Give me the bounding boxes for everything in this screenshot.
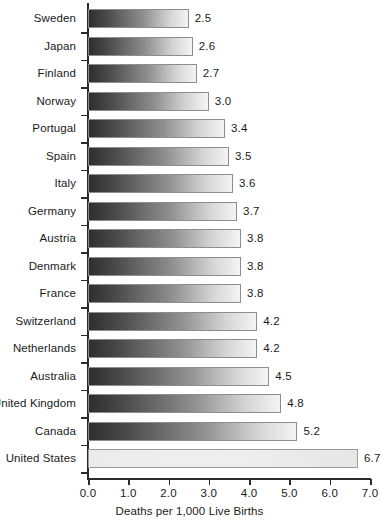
bar-value-label: 3.8 [247, 229, 264, 248]
bar [88, 147, 229, 166]
bar [88, 9, 189, 28]
y-axis-tick [81, 142, 88, 144]
y-axis-tick [81, 307, 88, 309]
category-label: Germany [28, 202, 76, 221]
bar [88, 449, 358, 468]
bar-value-label: 6.7 [364, 449, 381, 468]
bar [88, 367, 269, 386]
x-axis-tick [249, 479, 251, 485]
category-label: Netherlands [13, 339, 76, 358]
y-axis-tick [81, 445, 88, 447]
bar [88, 312, 257, 331]
x-axis-tick-label: 4.0 [241, 486, 258, 500]
bar [88, 339, 257, 358]
x-axis-tick-label: 3.0 [201, 486, 218, 500]
bar [88, 229, 241, 248]
y-axis-tick [81, 252, 88, 254]
x-axis-tick-label: 7.0 [362, 486, 379, 500]
bar-value-label: 2.6 [199, 37, 216, 56]
bar [88, 257, 241, 276]
y-axis-tick [81, 417, 88, 419]
bar-value-label: 4.5 [275, 367, 292, 386]
x-axis-tick-label: 5.0 [281, 486, 298, 500]
x-axis-tick [289, 479, 291, 485]
bar-value-label: 2.5 [195, 9, 212, 28]
bar-value-label: 4.8 [287, 394, 304, 413]
category-label: Switzerland [15, 312, 76, 331]
category-label: Norway [36, 92, 76, 111]
y-axis-tick [81, 390, 88, 392]
category-label: United Kingdom [0, 394, 76, 413]
y-axis-tick [81, 335, 88, 337]
x-axis-tick [330, 479, 332, 485]
y-axis-tick [81, 87, 88, 89]
bar-value-label: 4.2 [263, 339, 280, 358]
y-axis-tick [81, 225, 88, 227]
bar-value-label: 3.8 [247, 284, 264, 303]
y-axis-tick [81, 280, 88, 282]
category-label: United States [6, 449, 76, 468]
y-axis-tick [81, 170, 88, 172]
bar-value-label: 3.0 [215, 92, 232, 111]
x-axis-tick [88, 479, 90, 485]
bar [88, 92, 209, 111]
bar-value-label: 3.6 [239, 174, 256, 193]
category-label: Japan [44, 37, 76, 56]
category-label: Portugal [32, 119, 76, 138]
bar-value-label: 3.7 [243, 202, 260, 221]
bar-value-label: 3.5 [235, 147, 252, 166]
bar [88, 394, 281, 413]
bar-value-label: 4.2 [263, 312, 280, 331]
category-label: Italy [54, 174, 76, 193]
category-label: Austria [40, 229, 77, 248]
category-label: Denmark [29, 257, 76, 276]
bar-value-label: 3.4 [231, 119, 248, 138]
x-axis-tick-label: 2.0 [160, 486, 177, 500]
y-axis-tick [81, 197, 88, 199]
bar [88, 202, 237, 221]
category-label: Finland [38, 64, 76, 83]
bar-value-label: 2.7 [203, 64, 220, 83]
bar [88, 284, 241, 303]
x-axis-tick [169, 479, 171, 485]
x-axis-tick-label: 0.0 [80, 486, 97, 500]
bar [88, 174, 233, 193]
category-label: Sweden [34, 9, 76, 28]
bar-value-label: 3.8 [247, 257, 264, 276]
x-axis-tick [209, 479, 211, 485]
y-axis-tick [81, 362, 88, 364]
y-axis-tick [81, 472, 88, 474]
bar-value-label: 5.2 [303, 422, 320, 441]
category-label: France [40, 284, 76, 303]
x-axis-tick [128, 479, 130, 485]
bar [88, 64, 197, 83]
bar [88, 119, 225, 138]
y-axis-tick [81, 115, 88, 117]
category-label: Canada [35, 422, 76, 441]
category-label: Australia [30, 367, 76, 386]
x-axis-tick-label: 1.0 [120, 486, 137, 500]
bar [88, 37, 193, 56]
x-axis-tick-label: 6.0 [321, 486, 338, 500]
bar [88, 422, 297, 441]
x-axis-tick [370, 479, 372, 485]
x-axis-title: Deaths per 1,000 Live Births [0, 505, 379, 517]
category-label: Spain [46, 147, 76, 166]
y-axis-tick [81, 60, 88, 62]
y-axis-tick [81, 32, 88, 34]
